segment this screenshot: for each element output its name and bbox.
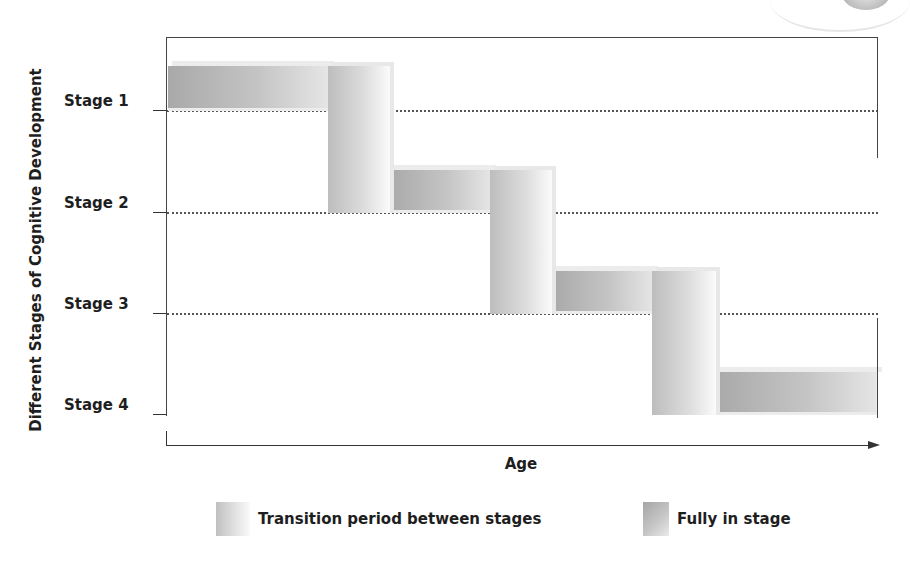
transition-bar-1-2 xyxy=(328,66,390,213)
legend-swatch-fully xyxy=(643,502,669,536)
y-axis-title: Different Stages of Cognitive Developmen… xyxy=(27,68,45,432)
plot-frame-right-lower xyxy=(877,318,878,418)
fully-in-stage-bar-2 xyxy=(390,170,492,213)
plot-frame-top xyxy=(166,37,878,38)
decorative-arc xyxy=(770,0,910,32)
legend-label-fully: Fully in stage xyxy=(677,510,791,528)
stage-1-tick xyxy=(153,110,167,111)
stage-1-label: Stage 1 xyxy=(64,92,129,110)
x-axis-stub xyxy=(166,431,167,445)
legend-item-fully: Fully in stage xyxy=(643,502,791,536)
transition-bar-2-3 xyxy=(490,170,552,314)
stage-2-tick xyxy=(153,212,167,213)
legend-label-transition: Transition period between stages xyxy=(258,510,541,528)
plot-frame-right xyxy=(877,38,878,158)
legend-swatch-transition xyxy=(216,502,250,536)
x-axis-line xyxy=(166,445,870,446)
transition-bar-3-4 xyxy=(652,271,716,415)
stage-4-tick xyxy=(153,414,167,415)
stage-2-label: Stage 2 xyxy=(64,194,129,212)
legend-item-transition: Transition period between stages xyxy=(216,502,541,536)
fully-in-stage-bar-3 xyxy=(552,271,654,314)
x-axis-title: Age xyxy=(505,455,538,473)
x-axis-arrow-icon xyxy=(868,441,880,449)
stage-4-label: Stage 4 xyxy=(64,396,129,414)
y-axis-line xyxy=(166,37,167,416)
fully-in-stage-bar-4 xyxy=(716,372,878,415)
stage-3-tick xyxy=(153,313,167,314)
fully-in-stage-bar-1 xyxy=(168,66,330,111)
stage-3-label: Stage 3 xyxy=(64,295,129,313)
